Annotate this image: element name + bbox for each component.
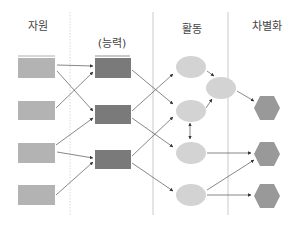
capability-node-3: [95, 150, 131, 169]
resource-node-4: [18, 185, 55, 205]
resource-node-1: [18, 58, 55, 78]
capability-node-1: [95, 58, 131, 78]
differentiation-node-3: [254, 184, 280, 208]
edges-resource-capability: [56, 65, 93, 195]
activity-node-1: [176, 56, 206, 78]
resource-node-2: [18, 101, 55, 120]
activity-node-5: [176, 184, 206, 206]
edges-capability-activity: [132, 70, 173, 191]
strategy-diagram: [0, 0, 298, 229]
resource-node-3: [18, 143, 55, 163]
activity-node-4: [176, 142, 206, 164]
differentiation-node-2: [254, 142, 280, 166]
differentiation-column: [254, 96, 280, 208]
activities-column: [176, 56, 236, 206]
capabilities-column: [95, 58, 131, 169]
differentiation-node-1: [254, 96, 280, 120]
capability-node-2: [95, 105, 131, 124]
resources-column: [18, 58, 55, 205]
activity-node-3: [176, 100, 206, 122]
activity-node-2: [206, 77, 236, 99]
